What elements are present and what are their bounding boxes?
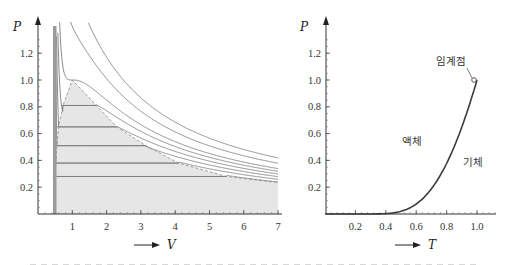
- svg-text:T: T: [428, 238, 437, 252]
- y-tick-label: 0.4: [308, 155, 322, 166]
- arrow-up-icon: [35, 16, 41, 25]
- right-axes: 0.20.40.60.81.01.20.20.40.60.81.0: [308, 16, 496, 232]
- y-tick-label: 1.0: [308, 75, 321, 86]
- liquid-region-label: 액체: [402, 135, 422, 147]
- arrow-right-icon: [413, 242, 421, 248]
- x-tick-label: 1.0: [470, 221, 483, 232]
- critical-point-label: 임계점: [436, 55, 466, 67]
- liquid-wall: [53, 26, 57, 214]
- y-tick-label: 1.2: [20, 48, 33, 59]
- left-x-axis-label: V: [134, 238, 177, 252]
- y-tick-label: 0.6: [308, 128, 321, 139]
- x-tick-label: 0.4: [379, 221, 393, 232]
- y-tick-label: 1.2: [308, 48, 321, 59]
- y-tick-label: 1.0: [20, 75, 33, 86]
- coexistence-dome-fill: [54, 80, 278, 214]
- right-x-axis-label: T: [395, 238, 437, 252]
- critical-point-marker: [472, 78, 477, 83]
- critical-point-leader-line: [467, 68, 472, 78]
- y-tick-label: 0.6: [20, 128, 33, 139]
- x-tick-label: 0.2: [349, 221, 362, 232]
- x-tick-label: 3: [138, 221, 143, 232]
- x-tick-label: 0.6: [410, 221, 423, 232]
- x-tick-label: 6: [241, 221, 246, 232]
- gas-region-label: 기체: [463, 156, 483, 168]
- x-tick-label: 1: [70, 221, 75, 232]
- y-tick-label: 0.2: [308, 182, 321, 193]
- y-tick-label: 0.8: [308, 101, 321, 112]
- x-tick-label: 4: [173, 221, 179, 232]
- pv-diagram: 0.20.40.60.81.01.21234567 P V: [12, 16, 282, 252]
- left-y-axis-label: P: [12, 20, 22, 34]
- coexistence-curve: [325, 80, 477, 214]
- x-tick-label: 5: [207, 221, 212, 232]
- svg-text:V: V: [167, 238, 177, 252]
- pt-phase-diagram: 0.20.40.60.81.01.20.20.40.60.81.0 임계점 액체…: [299, 16, 496, 252]
- y-tick-label: 0.8: [20, 101, 33, 112]
- y-tick-label: 0.4: [20, 155, 34, 166]
- right-y-axis-label: P: [299, 20, 309, 34]
- x-tick-label: 7: [275, 221, 280, 232]
- arrow-right-icon: [152, 242, 160, 248]
- x-tick-label: 2: [104, 221, 109, 232]
- figure: 0.20.40.60.81.01.21234567 P V 0.20.40.60…: [0, 0, 509, 265]
- x-tick-label: 0.8: [440, 221, 453, 232]
- y-tick-label: 0.2: [20, 182, 33, 193]
- arrow-up-icon: [323, 16, 329, 25]
